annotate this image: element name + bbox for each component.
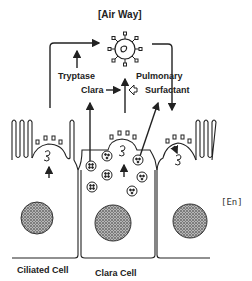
label-clara: Clara — [81, 86, 104, 95]
label-surfactant: Surfactant — [145, 86, 190, 95]
airway-diagram — [0, 0, 252, 281]
label-ciliated-cell: Ciliated Cell — [17, 266, 69, 275]
right-cell-nucleus — [173, 204, 207, 238]
label-clara-cell: Clara Cell — [95, 269, 137, 278]
clara-cell-nucleus — [95, 205, 131, 241]
label-en: [En] — [221, 198, 243, 207]
secretory-granules — [86, 151, 147, 196]
ciliated-cell-nucleus — [21, 202, 53, 234]
open-arrow-icon — [129, 85, 137, 95]
surfactant-arrow — [139, 103, 158, 159]
label-pulmonary: Pulmonary — [136, 72, 183, 81]
label-tryptase: Tryptase — [58, 72, 95, 81]
airway-particle-icon — [108, 32, 142, 66]
diagram-title: [Air Way] — [98, 10, 142, 20]
